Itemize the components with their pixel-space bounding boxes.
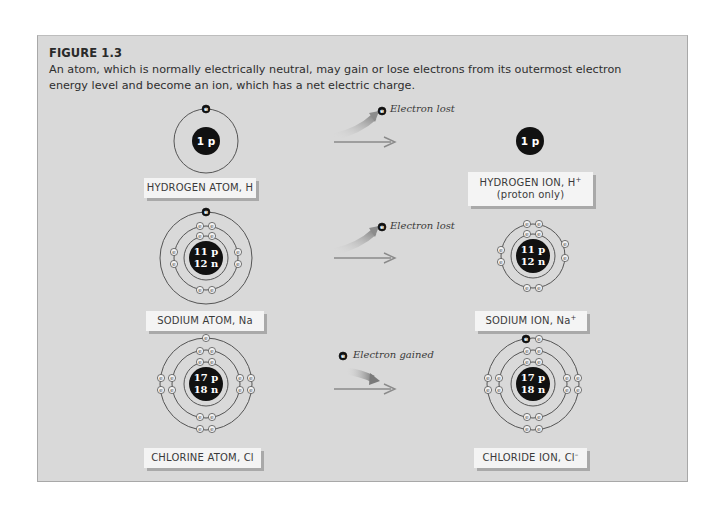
transition-note-hydrogen: Electron lost [390,103,455,114]
label-sodium-atom: SODIUM ATOM, Na [146,311,264,331]
nucleus-protons: 17 p [194,372,218,383]
electron-icon [202,208,210,216]
label-sodium-ion: SODIUM ION, Na+ [475,311,587,331]
transition-note-chlorine: Electron gained [353,349,434,360]
atom-ion-diagram: e e 1 p 1 p [38,36,689,483]
nucleus-protons: 11 p [194,246,218,257]
hydrogen-atom: 1 p [174,105,238,173]
nucleus-neutrons: 18 n [521,384,546,395]
electron-icon [522,335,530,343]
label-hydrogen-atom: HYDROGEN ATOM, H [144,178,256,198]
label-hydrogen-ion: HYDROGEN ION, H+ (proton only) [468,172,593,206]
chloride-ion: 17 p 18 n [484,335,581,433]
electron-icon [339,352,347,360]
nucleus-label: 1 p [197,135,216,147]
electron-icon [378,107,386,115]
nucleus-protons: 17 p [521,372,545,383]
sodium-ion: 11 p 12 n [497,220,568,291]
transition-note-sodium: Electron lost [390,220,455,231]
figure-panel: FIGURE 1.3 An atom, which is normally el… [37,35,688,482]
chlorine-atom: 17 p 18 n [157,334,254,432]
electron-icon [202,105,210,113]
sodium-atom: 11 p 12 n [160,208,252,304]
hydrogen-ion: 1 p [516,127,544,155]
nucleus-neutrons: 12 n [521,256,546,267]
label-chloride-ion: CHLORIDE ION, Cl– [474,448,587,468]
nucleus-neutrons: 18 n [194,384,219,395]
nucleus-protons: 11 p [521,244,545,255]
nucleus-label: 1 p [521,135,540,147]
nucleus-neutrons: 12 n [194,258,219,269]
electron-icon [378,223,386,231]
label-chlorine-atom: CHLORINE ATOM, Cl [144,448,261,468]
transition-arrow-hydrogen [334,107,395,147]
transition-arrow-sodium [334,223,395,263]
